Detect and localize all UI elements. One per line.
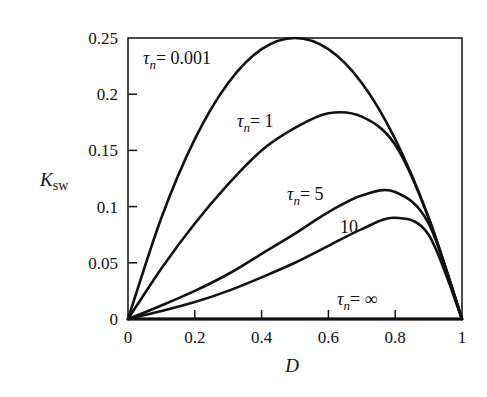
x-tick-label: 0.8 — [385, 328, 406, 347]
data-curves — [128, 38, 462, 319]
x-axis-label: D — [284, 355, 299, 376]
curve-series-1 — [128, 112, 462, 319]
label-tau-5: τn= 5 — [287, 184, 324, 208]
x-tick-label: 1 — [458, 328, 467, 347]
y-tick-label: 0.25 — [88, 29, 118, 48]
x-tick-label: 0.4 — [251, 328, 273, 347]
label-tau-1: τn= 1 — [237, 111, 274, 135]
chart: 00.050.10.150.20.2500.20.40.60.81 D Ksw … — [0, 0, 487, 397]
y-tick-label: 0 — [110, 310, 119, 329]
x-tick-label: 0 — [124, 328, 133, 347]
y-tick-label: 0.05 — [88, 254, 118, 273]
y-tick-label: 0.2 — [97, 85, 118, 104]
y-tick-label: 0.15 — [88, 141, 118, 160]
y-axis-label: Ksw — [39, 169, 69, 193]
y-tick-label: 0.1 — [97, 198, 118, 217]
curve-series-2 — [128, 190, 462, 319]
x-tick-label: 0.6 — [318, 328, 339, 347]
x-tick-label: 0.2 — [184, 328, 205, 347]
label-tau-0001: τn= 0.001 — [143, 48, 211, 72]
tick-labels: 00.050.10.150.20.2500.20.40.60.81 — [88, 29, 466, 347]
label-tau-inf: τn= ∞ — [337, 289, 378, 313]
label-tau-10: 10 — [340, 217, 358, 237]
